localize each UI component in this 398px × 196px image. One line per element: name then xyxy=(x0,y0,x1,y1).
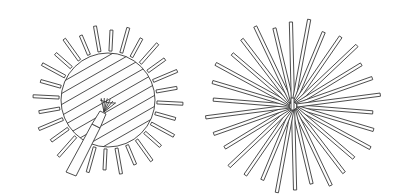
right-figure-starburst xyxy=(206,19,381,193)
illustration-canvas xyxy=(0,0,398,196)
left-figure-spoked-disc xyxy=(33,0,183,196)
